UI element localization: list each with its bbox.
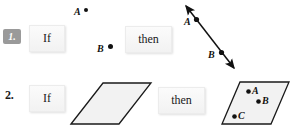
- plane-point-a-label-row2: A: [252, 86, 259, 96]
- point-b-dot-row1: [108, 44, 113, 49]
- worksheet-page: 1. If A B then A B 2. If then A: [0, 0, 297, 125]
- point-b-label-row1: B: [97, 44, 104, 54]
- point-a-label-row1: A: [74, 7, 81, 17]
- plane-point-c-label-row2: C: [238, 111, 245, 121]
- plane-point-b-label-row2: B: [262, 96, 269, 106]
- line-point-b-label-row1: B: [208, 50, 215, 60]
- then-chip-row1: then: [125, 26, 172, 53]
- then-chip-row2: then: [158, 87, 205, 114]
- if-chip-row1: If: [29, 25, 65, 52]
- problem-number-2: 2.: [5, 88, 14, 103]
- point-a-dot-row1: [84, 8, 88, 12]
- problem-number-1-badge: 1.: [3, 29, 21, 44]
- if-chip-row2: If: [29, 85, 65, 112]
- line-point-a-label-row1: A: [184, 17, 191, 27]
